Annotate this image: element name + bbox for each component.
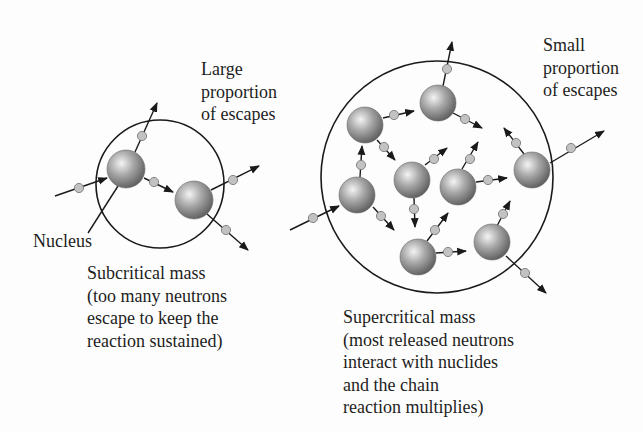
caption-line: (too many neutrons xyxy=(87,285,227,308)
nucleus-sphere xyxy=(107,150,145,188)
supercritical-caption: Supercritical mass (most released neutro… xyxy=(343,306,514,419)
label-line: Large xyxy=(201,58,277,81)
nucleus-sphere xyxy=(420,85,456,121)
neutron-path-arrow xyxy=(550,131,604,163)
neutron-path-arrow xyxy=(135,103,157,152)
caption-line: interact with nuclides xyxy=(343,351,514,374)
neutron-particle xyxy=(442,64,451,73)
neutron-particle xyxy=(520,268,529,277)
neutron-particle xyxy=(379,142,388,151)
caption-line: and the chain xyxy=(343,374,514,397)
nucleus-label-text: Nucleus xyxy=(33,230,92,253)
neutron-particle xyxy=(511,138,520,147)
neutron-particle xyxy=(74,183,83,192)
neutron-particle xyxy=(465,154,474,163)
small-proportion-escapes-label: Small proportion of escapes xyxy=(543,34,619,102)
label-line: Small xyxy=(543,34,619,57)
caption-line: reaction sustained) xyxy=(87,330,227,353)
neutron-particle xyxy=(409,204,418,213)
label-line: of escapes xyxy=(543,79,619,102)
nucleus-sphere xyxy=(474,224,510,260)
nucleus-sphere xyxy=(339,177,375,213)
subcritical-caption: Subcritical mass (too many neutrons esca… xyxy=(87,262,227,352)
nucleus-sphere xyxy=(394,162,430,198)
nucleus-sphere xyxy=(347,107,383,143)
neutron-particle xyxy=(149,177,158,186)
nucleus-sphere xyxy=(514,152,550,188)
neutron-particle xyxy=(498,209,507,218)
neutron-particle xyxy=(137,131,146,140)
neutron-particle xyxy=(430,225,439,234)
caption-line: Subcritical mass xyxy=(87,262,227,285)
caption-line: reaction multiplies) xyxy=(343,396,514,419)
caption-line: (most released neutrons xyxy=(343,329,514,352)
neutron-particle xyxy=(308,213,317,222)
nucleus-sphere xyxy=(175,181,213,219)
nucleus-sphere xyxy=(440,169,476,205)
neutron-particle xyxy=(389,110,398,119)
neutron-particle xyxy=(356,160,365,169)
neutron-particle xyxy=(483,175,492,184)
fission-chain-reaction-diagram: Large proportion of escapes Small propor… xyxy=(0,0,643,432)
label-line: proportion xyxy=(543,57,619,80)
label-line: proportion xyxy=(201,81,277,104)
label-line: of escapes xyxy=(201,103,277,126)
neutron-particle xyxy=(376,211,385,220)
neutron-particle xyxy=(221,225,230,234)
nucleus-pointer-line xyxy=(88,186,118,233)
neutron-particle xyxy=(460,114,469,123)
caption-line: escape to keep the xyxy=(87,307,227,330)
neutron-particle xyxy=(566,143,575,152)
neutron-particle xyxy=(228,175,237,184)
neutron-particle xyxy=(443,247,452,256)
nucleus-sphere xyxy=(400,239,436,275)
nucleus-label: Nucleus xyxy=(33,230,92,253)
large-proportion-escapes-label: Large proportion of escapes xyxy=(201,58,277,126)
neutron-particle xyxy=(429,154,438,163)
caption-line: Supercritical mass xyxy=(343,306,514,329)
